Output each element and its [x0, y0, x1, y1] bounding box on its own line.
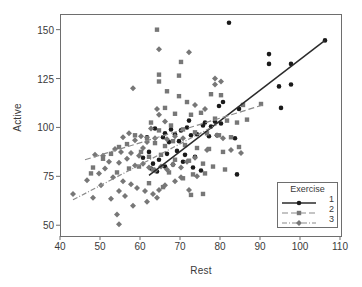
x-tick-label: 110 — [325, 241, 355, 252]
data-point — [221, 100, 226, 105]
data-point — [238, 150, 244, 156]
data-point — [227, 21, 232, 26]
data-point — [148, 125, 154, 131]
data-point — [192, 102, 198, 108]
data-point — [134, 185, 140, 191]
data-point — [128, 150, 134, 156]
data-point — [114, 211, 120, 217]
data-point — [218, 78, 224, 84]
legend-key-diamond-icon — [280, 214, 318, 224]
data-point — [189, 133, 194, 138]
data-point — [133, 133, 137, 137]
legend-item-1[interactable]: 1 — [278, 194, 337, 204]
data-point — [115, 170, 119, 174]
legend-key-circle-icon — [280, 194, 318, 204]
legend-title: Exercise — [278, 183, 337, 194]
x-tick-label: 60 — [125, 241, 155, 252]
data-point — [125, 142, 129, 146]
data-point — [192, 155, 198, 161]
y-tick-label: 125 — [28, 73, 54, 84]
legend-label: 2 — [318, 204, 334, 214]
data-point — [156, 112, 162, 118]
data-point — [120, 178, 126, 184]
chart-container: Active 5075100125150 405060708090100110 … — [0, 0, 362, 287]
data-point — [191, 165, 196, 170]
x-tick-label: 80 — [205, 241, 235, 252]
data-point — [199, 168, 204, 173]
data-point — [150, 191, 156, 197]
data-point — [267, 62, 272, 67]
data-point — [245, 117, 249, 121]
data-point — [201, 161, 205, 165]
data-point — [165, 89, 169, 93]
data-point — [157, 72, 161, 76]
data-point — [235, 120, 239, 124]
data-point — [154, 195, 160, 201]
data-point — [163, 144, 167, 148]
data-point — [229, 135, 233, 139]
data-point — [189, 113, 193, 117]
data-point — [187, 118, 192, 123]
data-point — [157, 157, 162, 162]
data-point — [154, 106, 160, 112]
data-point — [289, 82, 294, 87]
data-point — [169, 127, 174, 132]
data-point — [177, 94, 181, 98]
data-point — [130, 203, 136, 209]
y-tick-label: 50 — [28, 220, 54, 231]
legend: Exercise 123 — [277, 182, 338, 228]
data-point — [102, 166, 108, 172]
data-point — [189, 193, 193, 197]
data-point — [193, 130, 197, 134]
data-point — [163, 106, 167, 110]
x-tick-label: 70 — [165, 241, 195, 252]
data-point — [217, 104, 222, 109]
data-point — [179, 60, 183, 64]
data-point — [233, 136, 238, 141]
data-point — [221, 150, 225, 154]
x-tick-label: 50 — [85, 241, 115, 252]
legend-item-2[interactable]: 2 — [278, 204, 337, 214]
data-point — [84, 177, 90, 183]
data-point — [212, 81, 218, 87]
data-point — [130, 85, 136, 91]
x-tick-label: 100 — [285, 241, 315, 252]
data-point — [149, 120, 153, 124]
series-1 — [141, 21, 328, 177]
data-point — [173, 158, 177, 162]
data-point — [178, 165, 184, 171]
y-tick-label: 75 — [28, 171, 54, 182]
data-point — [155, 27, 159, 31]
legend-label: 3 — [318, 214, 334, 224]
data-point — [91, 165, 95, 169]
data-point — [116, 160, 122, 166]
data-point — [170, 162, 176, 168]
data-point — [142, 188, 148, 194]
data-point — [212, 76, 218, 82]
data-point — [157, 79, 161, 83]
data-point — [169, 123, 173, 127]
data-point — [128, 181, 134, 187]
data-point — [122, 193, 128, 199]
data-point — [157, 128, 161, 132]
data-point — [147, 155, 151, 159]
data-point — [147, 181, 151, 185]
data-point — [132, 137, 138, 143]
data-point — [177, 73, 181, 77]
data-point — [108, 196, 114, 202]
data-point — [120, 134, 126, 140]
legend-item-3[interactable]: 3 — [278, 214, 337, 224]
data-point — [173, 112, 177, 116]
data-point — [89, 171, 93, 175]
data-point — [172, 178, 178, 184]
data-point — [195, 146, 199, 150]
data-point — [186, 187, 192, 193]
data-point — [138, 133, 144, 139]
data-point — [209, 92, 213, 96]
x-tick-label: 90 — [245, 241, 275, 252]
data-point — [116, 188, 122, 194]
legend-entries: 123 — [278, 194, 337, 224]
data-point — [228, 147, 234, 153]
x-axis-label: Rest — [60, 265, 342, 276]
data-point — [165, 152, 170, 157]
